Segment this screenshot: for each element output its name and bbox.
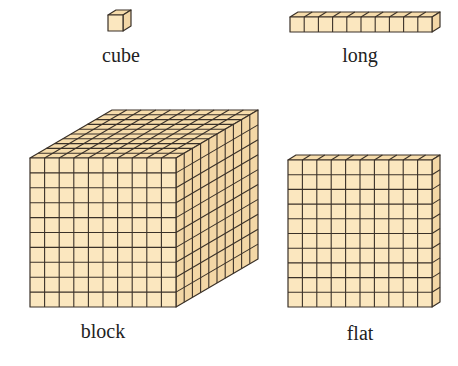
block-shape [30,110,258,307]
long-label: long [300,44,420,67]
long-shape [290,12,440,32]
block-label: block [43,320,163,343]
cube-shape [108,10,131,31]
flat-shape [288,155,440,307]
flat-label: flat [300,322,420,345]
cube-label: cube [61,44,181,67]
